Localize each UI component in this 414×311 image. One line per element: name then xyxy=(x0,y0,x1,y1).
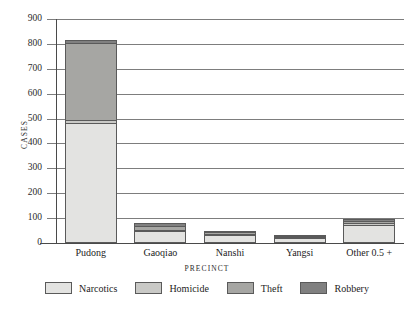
y-axis-tick-label: 600 xyxy=(0,88,42,98)
bar-other-0-5 xyxy=(343,219,395,243)
y-axis-tick xyxy=(47,19,56,20)
y-axis-tick-label: 900 xyxy=(0,13,42,23)
y-axis-tick-label: 100 xyxy=(0,212,42,222)
y-axis-tick xyxy=(47,119,56,120)
y-axis-tick-label: 800 xyxy=(0,38,42,48)
legend-label: Homicide xyxy=(169,283,208,294)
bar-segment-narcotics xyxy=(344,226,394,242)
y-axis-tick xyxy=(47,168,56,169)
bar-segment-narcotics xyxy=(135,232,185,242)
legend-label: Theft xyxy=(261,283,283,294)
legend-swatch-homicide xyxy=(135,282,162,294)
y-axis-tick xyxy=(47,69,56,70)
legend-swatch-theft xyxy=(227,282,254,294)
bar-chart-figure: 0100200300400500600700800900 CASES Pudon… xyxy=(0,0,414,311)
y-axis-tick-label: 200 xyxy=(0,187,42,197)
legend-item-theft[interactable]: Theft xyxy=(227,282,283,294)
y-axis-line xyxy=(56,19,57,244)
bar-nanshi xyxy=(204,231,256,243)
x-axis-title: PRECINCT xyxy=(0,264,414,273)
y-axis-tick-label: 0 xyxy=(0,237,42,247)
legend-item-narcotics[interactable]: Narcotics xyxy=(45,282,117,294)
legend-item-robbery[interactable]: Robbery xyxy=(300,282,368,294)
bar-gaoqiao xyxy=(134,223,186,243)
legend-label: Robbery xyxy=(334,283,368,294)
legend-swatch-narcotics xyxy=(45,282,72,294)
bar-segment-narcotics xyxy=(205,236,255,242)
legend-swatch-robbery xyxy=(300,282,327,294)
y-axis-tick-label: 700 xyxy=(0,63,42,73)
bar-pudong xyxy=(65,40,117,243)
y-axis-tick xyxy=(47,218,56,219)
y-axis-title: CASES xyxy=(20,105,29,165)
bar-segment-narcotics xyxy=(66,124,116,242)
bar-segment-theft xyxy=(66,44,116,120)
y-axis-tick xyxy=(47,193,56,194)
y-axis-tick xyxy=(47,44,56,45)
bar-segment-narcotics xyxy=(275,239,325,242)
x-axis-tick-label: Other 0.5 + xyxy=(314,247,414,258)
gridline xyxy=(56,19,404,20)
plot-area xyxy=(56,19,404,243)
y-axis-tick xyxy=(47,94,56,95)
legend-label: Narcotics xyxy=(79,283,117,294)
bar-yangsi xyxy=(274,235,326,243)
y-axis-tick xyxy=(47,143,56,144)
chart-legend: NarcoticsHomicideTheftRobbery xyxy=(0,282,414,294)
x-axis-line xyxy=(40,243,404,244)
legend-item-homicide[interactable]: Homicide xyxy=(135,282,208,294)
